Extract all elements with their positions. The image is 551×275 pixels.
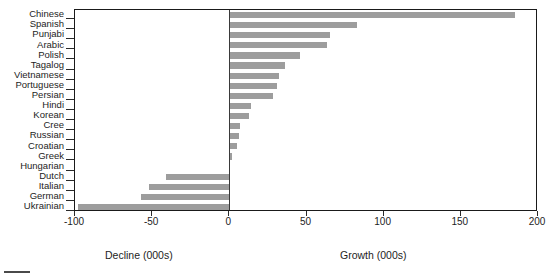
category-tick	[66, 39, 74, 49]
category-tick	[66, 90, 74, 100]
bar	[166, 174, 229, 180]
category-label-row: Croatian	[0, 140, 66, 150]
value-axis-tick-label: -100	[64, 217, 84, 227]
bar	[229, 73, 278, 79]
category-label: Hungarian	[20, 161, 64, 171]
bar-row	[75, 131, 536, 141]
page-artifact-mark	[4, 271, 30, 273]
category-label: Dutch	[39, 171, 64, 181]
growth-axis-caption: Growth (000s)	[340, 250, 407, 261]
category-label: Hindi	[42, 100, 64, 110]
category-label-row: Punjabi	[0, 29, 66, 39]
category-label: Greek	[38, 151, 64, 161]
category-tick	[66, 70, 74, 80]
category-label: Vietnamese	[14, 70, 64, 80]
category-label: Polish	[38, 50, 64, 60]
bar	[149, 184, 229, 190]
category-label: Croatian	[28, 141, 64, 151]
category-tick	[66, 29, 74, 39]
category-tick	[66, 100, 74, 110]
category-tick	[66, 120, 74, 130]
category-tick	[66, 19, 74, 29]
bar-row	[75, 111, 536, 121]
category-label: Korean	[33, 110, 64, 120]
value-axis-tick-label: 200	[529, 217, 546, 227]
value-axis-tick-label: -50	[144, 217, 158, 227]
category-axis-ticks	[66, 9, 74, 211]
bar-row	[75, 162, 536, 172]
horizontal-bar-chart: ChineseSpanishPunjabiArabicPolishTagalog…	[0, 0, 551, 275]
category-label: Arabic	[37, 40, 64, 50]
bar	[229, 123, 240, 129]
category-label: Russian	[30, 130, 64, 140]
bar	[78, 204, 229, 210]
bar	[229, 12, 515, 18]
bar-row	[75, 50, 536, 60]
bar-row	[75, 81, 536, 91]
category-label: Punjabi	[32, 29, 64, 39]
category-label: Spanish	[30, 19, 64, 29]
bar	[229, 32, 329, 38]
bar-row	[75, 151, 536, 161]
bar-row	[75, 40, 536, 50]
bar-row	[75, 61, 536, 71]
category-tick	[66, 49, 74, 59]
bar-row	[75, 172, 536, 182]
category-label-row: Ukrainian	[0, 201, 66, 211]
bar-row	[75, 121, 536, 131]
bar-row	[75, 20, 536, 30]
category-tick	[66, 140, 74, 150]
bar	[229, 42, 326, 48]
bar-row	[75, 192, 536, 202]
category-label-row: Hungarian	[0, 160, 66, 170]
value-axis-tick-label: 50	[300, 217, 311, 227]
value-axis: -100-50050100150200	[74, 211, 537, 241]
category-label-row: Arabic	[0, 39, 66, 49]
plot-area	[74, 9, 537, 211]
category-label: Cree	[43, 120, 64, 130]
bar-row	[75, 10, 536, 20]
category-tick	[66, 110, 74, 120]
category-label-row: Greek	[0, 150, 66, 160]
category-label-row: Polish	[0, 49, 66, 59]
category-tick	[66, 9, 74, 19]
category-label: Chinese	[29, 9, 64, 19]
category-label: Ukrainian	[24, 201, 64, 211]
bar	[141, 194, 229, 200]
value-axis-tick-label: 100	[374, 217, 391, 227]
bar	[229, 22, 357, 28]
bar	[229, 62, 285, 68]
category-tick	[66, 181, 74, 191]
bar-row	[75, 101, 536, 111]
bar-row	[75, 30, 536, 40]
category-tick	[66, 59, 74, 69]
category-label: Tagalog	[31, 60, 64, 70]
bar	[229, 93, 272, 99]
bar	[229, 83, 277, 89]
bar	[229, 143, 237, 149]
category-axis-labels: ChineseSpanishPunjabiArabicPolishTagalog…	[0, 9, 66, 211]
category-tick	[66, 171, 74, 181]
category-label: German	[30, 191, 64, 201]
bar-row	[75, 141, 536, 151]
category-label-row: Russian	[0, 130, 66, 140]
decline-axis-caption: Decline (000s)	[105, 250, 173, 261]
category-tick	[66, 80, 74, 90]
category-tick	[66, 150, 74, 160]
category-tick	[66, 191, 74, 201]
bar-row	[75, 71, 536, 81]
category-tick	[66, 130, 74, 140]
bar	[229, 103, 251, 109]
category-label: Portuguese	[15, 80, 64, 90]
bar	[229, 113, 249, 119]
bar-row	[75, 182, 536, 192]
value-axis-tick-label: 0	[226, 217, 232, 227]
bar	[229, 52, 300, 58]
bar	[229, 133, 238, 139]
category-tick	[66, 160, 74, 170]
value-axis-tick-label: 150	[451, 217, 468, 227]
zero-baseline	[229, 10, 230, 210]
category-label: Italian	[39, 181, 64, 191]
bars-container	[75, 10, 536, 210]
category-label: Persian	[32, 90, 64, 100]
